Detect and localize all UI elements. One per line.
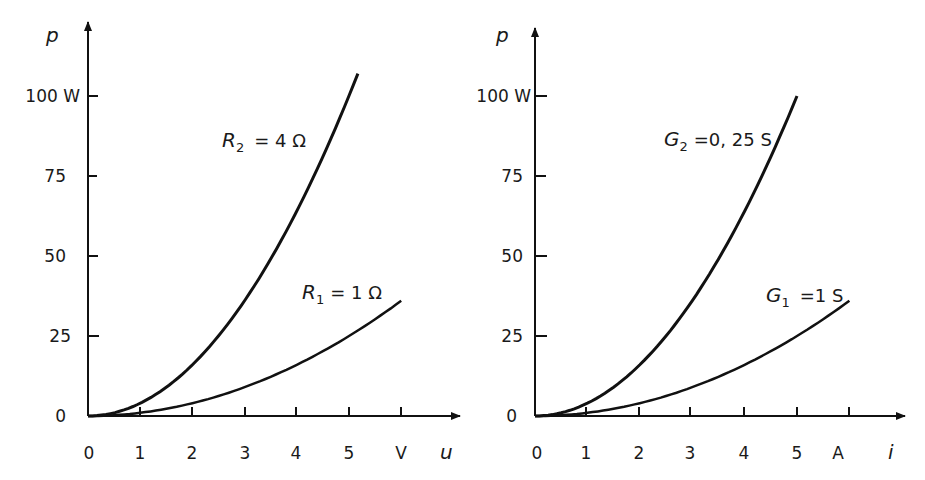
y-ticks [535,96,547,336]
x-axis-label: i [888,440,894,464]
figure: p u 100 W 75 50 25 0 0 1 2 3 4 5 V [0,0,925,480]
x-tick-label: 3 [240,443,251,463]
chart-left: p u 100 W 75 50 25 0 0 1 2 3 4 5 V [25,22,460,464]
y-tick-label: 100 W [476,86,531,106]
curve-r1 [88,301,401,416]
x-tick-label: 0 [532,443,543,463]
x-ticks [586,407,849,416]
x-tick-label: 3 [685,443,696,463]
x-tick-label: 2 [634,443,645,463]
y-tick-label: 25 [501,326,523,346]
y-tick-label: 50 [501,246,523,266]
x-axis-label: u [440,440,453,464]
y-ticks [88,96,99,336]
curve-label-g2: G2=0, 25 S [664,127,772,154]
y-axis-label: p [45,23,59,47]
x-tick-label: V [395,443,407,463]
chart-right: p i 100 W 75 50 25 0 0 1 2 3 4 5 A [476,23,905,464]
x-tick-label: 4 [739,443,750,463]
y-tick-label: 100 W [25,86,80,106]
x-tick-label: A [832,443,844,463]
curve-label-r2: R2= 4 Ω [222,128,306,155]
y-tick-label: 0 [55,406,66,426]
x-tick-label: 4 [291,443,302,463]
curve-g1 [535,301,849,416]
x-tick-label: 1 [581,443,592,463]
y-tick-label: 75 [44,166,66,186]
y-axis-label: p [495,23,509,47]
curve-label-g1: G1=1 S [766,283,843,310]
x-ticks [140,407,401,416]
curve-label-r1: R1= 1 Ω [302,280,382,307]
x-tick-label: 0 [84,443,95,463]
x-tick-label: 5 [344,443,355,463]
x-tick-label: 5 [792,443,803,463]
y-tick-label: 50 [44,246,66,266]
curve-r2 [88,74,358,416]
y-tick-label: 25 [49,326,71,346]
x-tick-label: 2 [187,443,198,463]
y-tick-label: 75 [501,166,523,186]
x-tick-label: 1 [135,443,146,463]
y-tick-label: 0 [506,406,517,426]
